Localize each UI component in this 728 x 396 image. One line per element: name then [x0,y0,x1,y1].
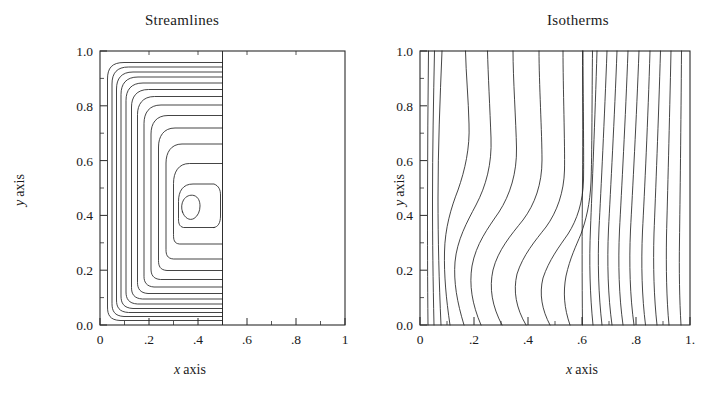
x-tick-label: .8 [291,332,301,347]
x-tick-label: .4 [193,332,203,347]
x-axis-ticks-isotherms [420,317,690,325]
x-tick-label: 0 [97,332,104,347]
x-tick-labels-streamlines: 0 .2 .4 .6 .8 1 [97,332,349,347]
streamlines-plot-svg: 0.0 0.2 0.4 0.6 0.8 1.0 0 .2 .4 .6 .8 1 [0,0,380,396]
y-tick-label: 0.4 [396,208,413,223]
y-tick-label: 0.0 [76,318,93,333]
y-tick-label: 0.2 [76,263,93,278]
panel-streamlines: Streamlines yaxis xaxis [0,0,380,396]
streamline-contours [108,63,223,321]
y-tick-label: 0.6 [76,154,93,169]
y-axis-ticks-streamlines [100,51,107,325]
y-tick-label: 0.8 [76,99,93,114]
x-tick-label: .8 [631,332,641,347]
x-tick-label: .6 [577,332,587,347]
y-tick-label: 0.0 [396,318,413,333]
y-tick-label: 0.8 [396,99,413,114]
y-tick-label: 0.4 [76,208,93,223]
x-tick-label: .4 [523,332,533,347]
y-tick-labels-streamlines: 0.0 0.2 0.4 0.6 0.8 1.0 [76,44,93,333]
x-tick-labels-isotherms: 0 .2 .4 .6 .8 1. [417,332,695,347]
x-tick-label: 1. [685,332,695,347]
y-tick-label: 1.0 [76,44,93,59]
panel-isotherms: Isotherms yaxis xaxis [380,0,728,396]
isotherms-axes: 0.0 0.2 0.4 0.6 0.8 1.0 0 .2 .4 .6 .8 1. [396,44,695,347]
x-tick-label: .2 [469,332,479,347]
y-tick-label: 0.2 [396,263,413,278]
y-tick-labels-isotherms: 0.0 0.2 0.4 0.6 0.8 1.0 [396,44,413,333]
y-axis-ticks-isotherms [420,51,427,325]
x-tick-label: .6 [242,332,252,347]
x-tick-label: 1 [342,332,349,347]
isotherms-plot-svg: 0.0 0.2 0.4 0.6 0.8 1.0 0 .2 .4 .6 .8 1. [380,0,728,396]
x-tick-label: .2 [144,332,154,347]
y-tick-label: 0.6 [396,154,413,169]
figure-container: Streamlines yaxis xaxis [0,0,728,396]
y-tick-label: 1.0 [396,44,413,59]
x-tick-label: 0 [417,332,424,347]
isotherm-contours [428,51,682,325]
